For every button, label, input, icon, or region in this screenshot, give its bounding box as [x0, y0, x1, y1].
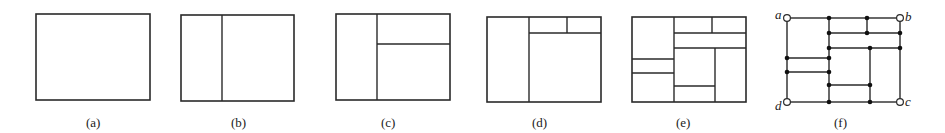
corner-node-a [784, 15, 791, 22]
node [827, 70, 832, 75]
node [827, 46, 832, 51]
panel-b-caption: (b) [231, 115, 246, 130]
node [827, 100, 832, 105]
node [827, 83, 832, 88]
node [898, 31, 903, 36]
panel-b: (b) [181, 15, 294, 130]
panel-a-frame [36, 14, 150, 100]
node [898, 46, 903, 51]
node [785, 56, 790, 61]
corner-node-c [897, 99, 904, 106]
node [827, 56, 832, 61]
corner-node-b [897, 15, 904, 22]
panel-f-solid-nodes [785, 16, 903, 105]
node [865, 16, 870, 21]
node [827, 16, 832, 21]
panel-a: (a) [36, 14, 150, 130]
panel-f-outer-edges [787, 18, 900, 102]
panel-d-caption: (d) [532, 115, 547, 130]
corner-label-d: d [775, 98, 782, 113]
panel-d-frame [487, 17, 601, 102]
panel-a-caption: (a) [86, 115, 100, 130]
corner-label-a: a [775, 7, 782, 22]
panel-f: a b c d (f) [775, 7, 912, 130]
node [827, 31, 832, 36]
floorplan-partition-figure: (a) (b) (c) (d) (e) [0, 0, 945, 133]
node [785, 70, 790, 75]
panel-e-caption: (e) [676, 115, 690, 130]
panel-c-caption: (c) [381, 115, 395, 130]
panel-d: (d) [487, 17, 601, 130]
node [865, 31, 870, 36]
node [868, 100, 873, 105]
node [868, 83, 873, 88]
panel-e: (e) [632, 17, 746, 130]
node [868, 46, 873, 51]
panel-c-frame [336, 14, 450, 100]
panel-f-caption: (f) [834, 115, 847, 130]
panel-b-frame [181, 15, 294, 101]
corner-node-d [784, 99, 791, 106]
corner-label-c: c [905, 94, 911, 109]
corner-label-b: b [905, 9, 912, 24]
panel-c: (c) [336, 14, 450, 130]
